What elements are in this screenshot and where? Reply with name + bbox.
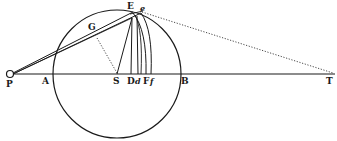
dotted-line-eT bbox=[142, 12, 333, 73]
geometry-diagram: P A S D d F f B T E e G bbox=[0, 0, 337, 141]
point-P-marker bbox=[7, 71, 14, 78]
line-D-vertical bbox=[131, 18, 132, 74]
label-P: P bbox=[6, 79, 13, 89]
label-E: E bbox=[127, 1, 134, 11]
label-B: B bbox=[181, 76, 189, 86]
line-SE bbox=[117, 18, 132, 74]
label-d: d bbox=[135, 76, 141, 86]
dotted-line-GS bbox=[97, 38, 117, 73]
line-P-inner bbox=[13, 18, 132, 74]
line-PE bbox=[13, 12, 133, 73]
label-A: A bbox=[41, 76, 50, 86]
line-d-vertical bbox=[137, 16, 138, 74]
label-e: e bbox=[140, 3, 145, 13]
label-f: f bbox=[149, 76, 155, 86]
label-S: S bbox=[113, 76, 120, 86]
arc-EF bbox=[133, 13, 146, 74]
label-T: T bbox=[326, 76, 333, 86]
label-F: F bbox=[143, 76, 150, 86]
label-G: G bbox=[88, 22, 96, 32]
label-D: D bbox=[127, 76, 135, 86]
